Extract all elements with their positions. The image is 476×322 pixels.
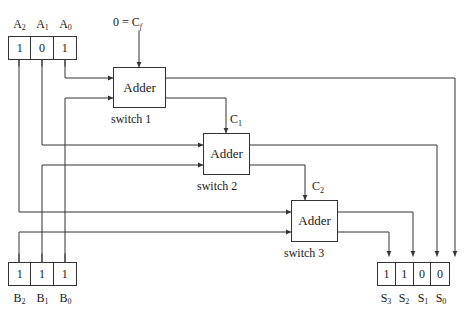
register-b: 1 1 1 bbox=[8, 262, 77, 286]
carry-label-c2: C2 bbox=[312, 179, 324, 195]
adder-box-3: Adder bbox=[291, 200, 338, 242]
label-b2: B2 bbox=[8, 291, 31, 306]
adder-2-caption-text: switch 2 bbox=[197, 179, 237, 193]
adder-1-caption: switch 1 bbox=[111, 112, 151, 127]
label-b2-base: B bbox=[13, 291, 21, 305]
label-s3: S3 bbox=[377, 291, 395, 306]
label-s0: S0 bbox=[432, 291, 450, 306]
wire-a0-to-adder1 bbox=[65, 60, 113, 78]
register-s-cell-2: 1 bbox=[396, 263, 414, 285]
adder-box-1: Adder bbox=[113, 67, 166, 108]
label-b1-sub: 1 bbox=[45, 297, 49, 306]
register-a-cell-0: 1 bbox=[54, 37, 76, 59]
label-b0-sub: 0 bbox=[68, 297, 72, 306]
label-s1: S1 bbox=[414, 291, 432, 306]
adder-diagram: 1 0 1 A2 A1 A0 1 1 1 B2 B1 B0 1 1 0 0 S3… bbox=[0, 0, 476, 322]
register-s-cell-0: 0 bbox=[431, 263, 449, 285]
adder-1-label: Adder bbox=[123, 80, 156, 96]
carry-c2-base: C bbox=[312, 179, 320, 193]
label-b1-base: B bbox=[36, 291, 44, 305]
label-s2: S2 bbox=[395, 291, 413, 306]
label-a2-sub: 2 bbox=[22, 23, 26, 32]
carry-c1-base: C bbox=[230, 112, 238, 126]
label-a1: A1 bbox=[31, 17, 54, 32]
wire-carry-c2 bbox=[250, 165, 305, 200]
label-a0-sub: 0 bbox=[68, 23, 72, 32]
register-a-cell-2: 1 bbox=[9, 37, 31, 59]
wire-carryout-s3 bbox=[338, 232, 389, 256]
wire-carry-c1 bbox=[166, 98, 226, 133]
register-b-cell-0: 1 bbox=[54, 263, 76, 285]
carry-in-value: 0 bbox=[113, 15, 119, 29]
carry-in-label: 0 = Cf bbox=[113, 15, 142, 31]
label-a0-base: A bbox=[59, 17, 68, 31]
register-a-cell-1: 0 bbox=[31, 37, 53, 59]
carry-in-equals: = bbox=[122, 15, 129, 29]
carry-c1-sub: 1 bbox=[238, 119, 242, 128]
register-b-cell-2: 1 bbox=[9, 263, 31, 285]
label-a0: A0 bbox=[54, 17, 77, 32]
wire-b0-to-adder1 bbox=[65, 98, 113, 262]
wire-sum-s1 bbox=[250, 145, 437, 256]
wire-sum-s2 bbox=[338, 212, 413, 256]
label-s3-sub: 3 bbox=[387, 297, 391, 306]
carry-in-name: C bbox=[132, 15, 140, 29]
register-s: 1 1 0 0 bbox=[377, 262, 450, 286]
adder-3-caption-text: switch 3 bbox=[284, 246, 324, 260]
carry-in-sub: f bbox=[140, 22, 142, 31]
register-b-cell-1: 1 bbox=[31, 263, 53, 285]
carry-label-c1: C1 bbox=[230, 112, 242, 128]
label-s0-sub: 0 bbox=[442, 297, 446, 306]
label-a2-base: A bbox=[13, 17, 22, 31]
register-s-cell-3: 1 bbox=[378, 263, 396, 285]
label-b2-sub: 2 bbox=[22, 297, 26, 306]
carry-c2-sub: 2 bbox=[320, 186, 324, 195]
label-a2: A2 bbox=[8, 17, 31, 32]
register-a: 1 0 1 bbox=[8, 36, 77, 60]
label-b0: B0 bbox=[54, 291, 77, 306]
adder-1-caption-text: switch 1 bbox=[111, 112, 151, 126]
label-a1-sub: 1 bbox=[45, 23, 49, 32]
adder-2-label: Adder bbox=[210, 146, 243, 162]
adder-box-2: Adder bbox=[203, 133, 250, 175]
register-s-cell-1: 0 bbox=[414, 263, 432, 285]
label-s1-sub: 1 bbox=[424, 297, 428, 306]
adder-3-caption: switch 3 bbox=[284, 246, 324, 261]
adder-2-caption: switch 2 bbox=[197, 179, 237, 194]
label-s2-sub: 2 bbox=[405, 297, 409, 306]
label-b0-base: B bbox=[59, 291, 67, 305]
label-a1-base: A bbox=[36, 17, 45, 31]
label-b1: B1 bbox=[31, 291, 54, 306]
adder-3-label: Adder bbox=[298, 213, 331, 229]
